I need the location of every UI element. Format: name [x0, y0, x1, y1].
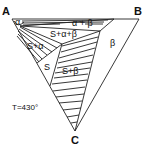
region-alpha-beta-label: α + β [72, 18, 93, 28]
vertex-b-label: B [134, 5, 142, 17]
region-s-label: S [44, 62, 50, 72]
region-beta-label: β [110, 38, 115, 48]
vertex-a-label: A [2, 5, 10, 17]
vertex-c-label: C [71, 134, 79, 146]
region-alpha-label: α [15, 17, 20, 27]
temperature-label: T=430° [12, 103, 38, 112]
region-s-beta-label: S+β [62, 66, 78, 76]
region-s-alpha-label: S+α [27, 41, 43, 51]
ternary-diagram: A B C α α + β S+α+β S+α S S+β β T=430° [0, 0, 149, 147]
region-s-alpha-beta-label: S+α+β [50, 29, 77, 39]
